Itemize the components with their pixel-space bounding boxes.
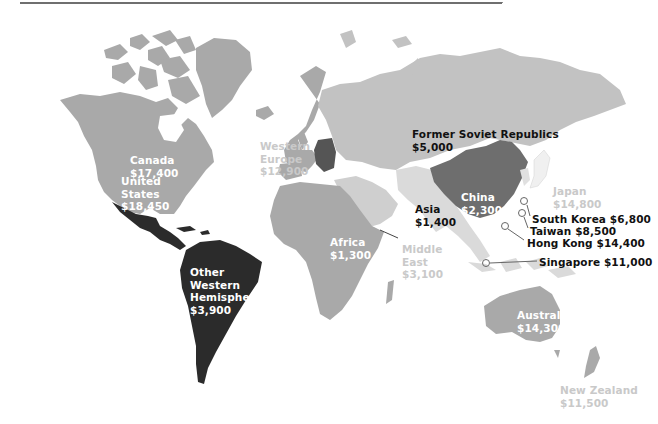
label-taiwan: Taiwan $8,500: [530, 225, 616, 238]
greenland: [196, 38, 252, 118]
label-south-korea: South Korea $6,800: [532, 213, 651, 226]
label-other-western-hemisphere: Other Western Hemisphere $3,900: [190, 266, 262, 316]
iceland: [256, 106, 274, 120]
label-middle-east: Middle East $3,100: [402, 243, 443, 281]
label-new-zealand: New Zealand $11,500: [560, 384, 638, 409]
south-korea-leader: [527, 205, 530, 216]
label-china: China $2,300: [461, 191, 502, 216]
eastern-europe: [314, 138, 336, 172]
label-japan: Japan $14,800: [553, 185, 602, 210]
world-map: [0, 0, 658, 424]
taiwan-marker: [519, 210, 526, 217]
hong-kong-leader: [508, 229, 524, 240]
japan: [530, 150, 550, 188]
label-united-states: United States $18,450: [121, 175, 170, 213]
label-former-soviet-republics: Former Soviet Republics $5,000: [412, 128, 559, 153]
label-western-europe: Western Europe $12,900: [260, 140, 310, 178]
label-australia: Australia $14,300: [517, 309, 571, 334]
hong-kong-marker: [502, 223, 509, 230]
south-korea-marker: [521, 198, 528, 205]
label-africa: Africa $1,300: [330, 236, 371, 261]
label-singapore: Singapore $11,000: [539, 256, 652, 269]
label-asia: Asia $1,400: [415, 203, 456, 228]
taiwan-leader: [524, 217, 528, 228]
new-zealand: [584, 346, 600, 378]
tasmania: [554, 350, 560, 358]
label-hong-kong: Hong Kong $14,400: [527, 237, 645, 250]
madagascar: [386, 280, 394, 304]
caribbean: [176, 226, 210, 235]
